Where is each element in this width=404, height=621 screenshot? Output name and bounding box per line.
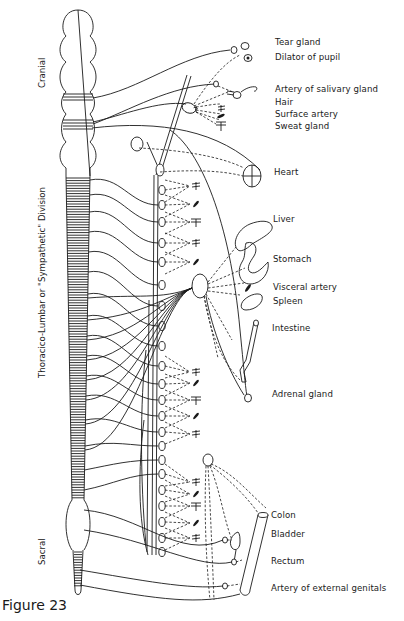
label-visceral-artery: Visceral artery [273, 282, 337, 292]
sacral-region-label: Sacral [37, 538, 47, 565]
label-intestine: Intestine [272, 323, 311, 333]
spinal-cord [60, 10, 96, 595]
middle-cervical-ganglion [131, 137, 143, 151]
label-colon: Colon [271, 510, 296, 520]
visceral-artery-symbol [244, 283, 252, 292]
label-surface-artery: Surface artery [275, 109, 338, 119]
label-artery-of-external-genitals: Artery of external genitals [271, 583, 386, 593]
thoraco-lumbar-region-label: Thoracico-Lumbar or "Sympathetic" Divisi… [37, 187, 47, 378]
label-bladder: Bladder [271, 529, 305, 539]
liver-organ [235, 221, 272, 251]
inferior-cervical-ganglion [156, 164, 164, 176]
label-rectum: Rectum [271, 556, 304, 566]
label-artery-of-salivary-gland: Artery of salivary gland [275, 84, 378, 94]
label-tear-gland: Tear gland [275, 37, 321, 47]
sympathetic-nervous-system-diagram: Cranial Thoracico-Lumbar or "Sympathetic… [0, 0, 404, 621]
figure-caption: Figure 23 [2, 597, 67, 613]
salivary-gland-organ [214, 81, 257, 99]
celiac-ganglion [192, 274, 208, 298]
adrenal-gland-organ [245, 394, 252, 402]
label-hair: Hair [275, 97, 293, 107]
pupil-organ [244, 55, 252, 62]
label-dilator-of-pupil: Dilator of pupil [275, 52, 340, 62]
spleen-organ [241, 294, 262, 310]
intestine-organ [240, 322, 258, 382]
rectum-colon-organ [240, 515, 268, 595]
label-sweat-gland: Sweat gland [275, 121, 329, 131]
tear-gland-organ [231, 43, 249, 54]
hair-symbol [218, 105, 225, 112]
label-stomach: Stomach [273, 254, 312, 264]
cranial-region-label: Cranial [37, 58, 47, 88]
label-adrenal-gland: Adrenal gland [272, 389, 333, 399]
bladder-organ [230, 532, 240, 550]
sweat-gland-symbol [216, 122, 226, 131]
label-liver: Liver [273, 214, 295, 224]
label-spleen: Spleen [273, 296, 303, 306]
colon-organ [258, 513, 268, 518]
label-heart: Heart [274, 167, 298, 177]
